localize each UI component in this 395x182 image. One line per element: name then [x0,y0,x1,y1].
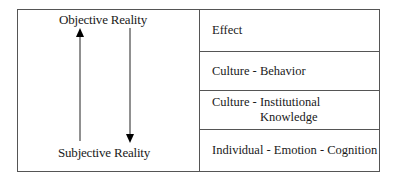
level-row-culture-behavior: Culture - Behavior [200,52,379,91]
level-label: Culture - Behavior [212,64,306,79]
levels-table: Effect Culture - Behavior Culture - Inst… [200,10,379,171]
subjective-reality-label: Subjective Reality [58,145,150,161]
down-arrow-icon [126,28,134,143]
level-label-line2: Knowledge [212,110,318,125]
level-row-culture-institutional-knowledge: Culture - Institutional Knowledge [200,91,379,130]
level-label: Effect [212,23,242,38]
diagram-frame: Objective Reality Subjective Reality Eff… [17,9,380,172]
level-row-effect: Effect [200,10,379,52]
level-label: Individual - Emotion - Cognition [212,143,377,158]
up-arrow-icon [76,28,84,141]
level-row-individual: Individual - Emotion - Cognition [200,130,379,171]
reality-axis-panel: Objective Reality Subjective Reality [18,10,200,171]
level-label-line1: Culture - Institutional [212,95,320,110]
